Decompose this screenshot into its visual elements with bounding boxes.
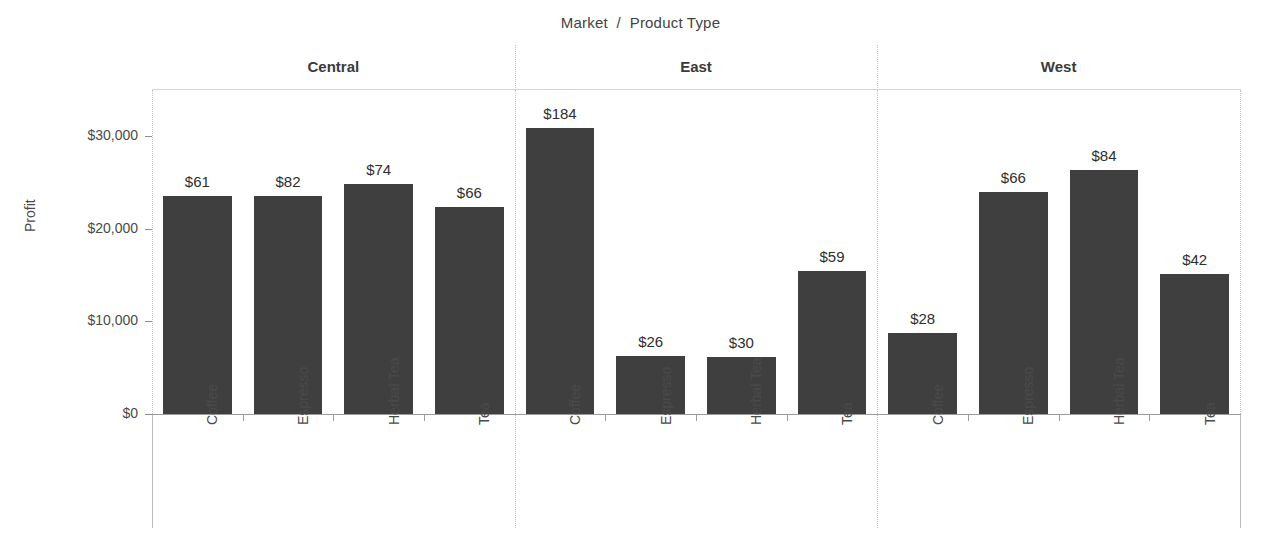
bar-east-espresso[interactable] [616, 356, 685, 414]
x-axis-label-espresso: Espresso [295, 367, 311, 425]
bar-value-label: $66 [429, 184, 509, 201]
panel-header-east: East [515, 45, 878, 89]
bar-central-espresso[interactable] [254, 196, 323, 414]
x-axis-label-tea: Tea [476, 402, 492, 425]
bar-value-label: $184 [520, 105, 600, 122]
bar-value-label: $30 [701, 334, 781, 351]
bar-value-label: $59 [792, 248, 872, 265]
x-axis-tick-mark [243, 414, 244, 421]
x-axis-tick-mark [605, 414, 606, 421]
panel-header-west: West [877, 45, 1240, 89]
panel-separator [515, 90, 516, 414]
x-axis-label-coffee: Coffee [930, 384, 946, 425]
x-axis-label-tea: Tea [1202, 402, 1218, 425]
x-axis-label-espresso: Espresso [658, 367, 674, 425]
panel-header-separator [877, 45, 878, 90]
bar-east-coffee[interactable] [526, 128, 595, 414]
bar-central-coffee[interactable] [163, 196, 232, 414]
bar-central-tea[interactable] [435, 207, 504, 414]
panel-separator [877, 90, 878, 414]
bar-value-label: $61 [157, 173, 237, 190]
x-axis-tick-mark [1059, 414, 1060, 421]
x-axis-label-tea: Tea [839, 402, 855, 425]
bar-chart-visualization: Market / Product Type CentralEastWest $0… [0, 0, 1281, 554]
bar-west-herbal-tea[interactable] [1070, 170, 1139, 414]
y-axis-tick-mark [145, 414, 152, 415]
xlabel-left-border [152, 415, 153, 528]
y-axis-title: Profit [22, 199, 38, 232]
y-axis: $0$10,000$20,000$30,000 [0, 0, 138, 554]
bar-value-label: $26 [611, 333, 691, 350]
bar-value-label: $84 [1064, 147, 1144, 164]
bar-value-label: $82 [248, 173, 328, 190]
bar-west-espresso[interactable] [979, 192, 1048, 414]
x-axis-tick-mark [968, 414, 969, 421]
bar-value-label: $74 [339, 161, 419, 178]
y-axis-tick-mark [145, 229, 152, 230]
y-axis-tick-label: $10,000 [87, 312, 138, 328]
x-axis-label-coffee: Coffee [567, 384, 583, 425]
bar-east-herbal-tea[interactable] [707, 357, 776, 414]
x-axis-tick-mark [424, 414, 425, 421]
bar-central-herbal-tea[interactable] [344, 184, 413, 414]
y-axis-tick-mark [145, 136, 152, 137]
panel-header-separator [515, 45, 516, 90]
bar-value-label: $42 [1155, 251, 1235, 268]
bar-west-coffee[interactable] [888, 333, 957, 414]
y-axis-tick-label: $20,000 [87, 220, 138, 236]
panel-header-band: CentralEastWest [152, 45, 1241, 90]
panel-header-central: Central [152, 45, 515, 89]
bar-east-tea[interactable] [798, 271, 867, 414]
bar-value-label: $66 [973, 169, 1053, 186]
x-axis-label-herbal-tea: Herbal Tea [386, 358, 402, 425]
x-axis-tick-mark [696, 414, 697, 421]
bar-value-label: $28 [883, 310, 963, 327]
x-axis-tick-mark [787, 414, 788, 421]
y-axis-tick-mark [145, 321, 152, 322]
xlabel-panel-separator [515, 415, 516, 528]
x-axis-tick-mark [1149, 414, 1150, 421]
x-axis-tick-mark [333, 414, 334, 421]
bar-west-tea[interactable] [1160, 274, 1229, 414]
x-axis-label-herbal-tea: Herbal Tea [1111, 358, 1127, 425]
xlabel-right-border [1240, 415, 1241, 528]
chart-title: Market / Product Type [0, 14, 1281, 31]
xlabel-panel-separator [877, 415, 878, 528]
x-axis-label-coffee: Coffee [204, 384, 220, 425]
x-axis-label-espresso: Espresso [1020, 367, 1036, 425]
y-axis-tick-label: $30,000 [87, 127, 138, 143]
x-axis-label-herbal-tea: Herbal Tea [748, 358, 764, 425]
y-axis-tick-label: $0 [122, 405, 138, 421]
